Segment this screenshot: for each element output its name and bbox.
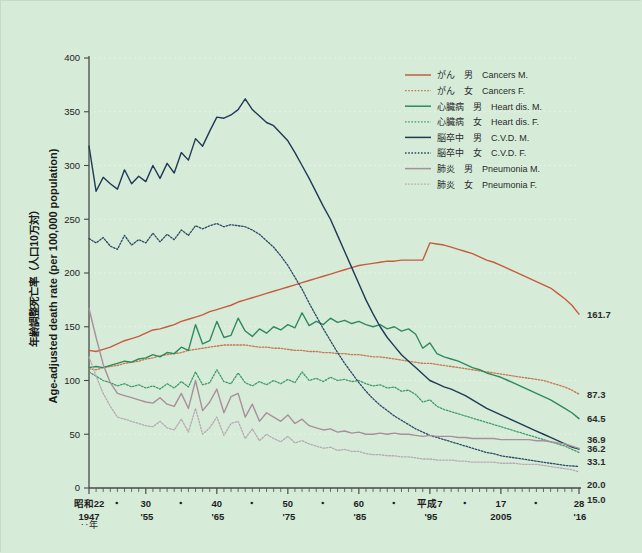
y-tick-label-250: 250: [64, 214, 80, 225]
x-tick-era-1955: 30: [141, 498, 152, 509]
x-axis-corner-note: ‥年: [80, 519, 98, 530]
x-tick-era-2005: 17: [496, 498, 507, 509]
x-tick-dot-1970: ・: [247, 497, 257, 508]
y-tick-label-350: 350: [64, 106, 80, 117]
legend-label-pneumonia_f: 肺炎 女 Pneumonia F.: [437, 179, 537, 190]
x-tick-era-2016: 28: [574, 498, 585, 509]
legend-label-heart_f: 心臓病 女 Heart dis. F.: [437, 116, 539, 127]
y-tick-label-100: 100: [64, 375, 80, 386]
end-label-heart_f: 33.1: [587, 456, 606, 467]
x-tick-western-1955: '55: [140, 511, 154, 522]
legend-label-cvd_f: 脳卒中 女 C.V.D. F.: [437, 147, 526, 158]
y-tick-label-200: 200: [64, 267, 80, 278]
x-tick-western-1995: '95: [424, 511, 438, 522]
x-tick-era-1965: 40: [212, 498, 223, 509]
x-tick-dot-1951: ・: [112, 497, 122, 508]
legend-label-cancer_f: がん 女 Cancers F.: [437, 85, 525, 96]
x-tick-western-1985: '85: [353, 511, 367, 522]
x-tick-era-1947: 昭和22: [74, 498, 105, 509]
y-tick-label-400: 400: [64, 52, 80, 63]
y-tick-label-0: 0: [75, 482, 80, 493]
x-tick-dot-1960: ・: [176, 497, 186, 508]
end-label-cancer_m: 161.7: [587, 309, 611, 320]
x-tick-dot-1990: ・: [389, 497, 399, 508]
y-tick-label-150: 150: [64, 321, 80, 332]
x-tick-western-1975: '75: [282, 511, 296, 522]
x-tick-western-2016: '16: [574, 511, 587, 522]
y-tick-label-300: 300: [64, 160, 80, 171]
end-label-pneumonia_f: 15.0: [587, 494, 606, 505]
end-label-cvd_f: 20.0: [587, 479, 606, 490]
end-label-cancer_f: 87.3: [587, 389, 606, 400]
legend-label-cvd_m: 脳卒中 男 C.V.D. M.: [437, 132, 529, 143]
legend-label-pneumonia_m: 肺炎 男 Pneumonia M.: [437, 164, 540, 174]
x-tick-dot-2010: ・: [531, 497, 541, 508]
x-tick-dot-2000: ・: [460, 497, 470, 508]
end-label-heart_m: 64.5: [587, 413, 606, 424]
x-tick-era-1985: 60: [354, 498, 365, 509]
age-adjusted-death-rate-chart: 050100150200250300350400 161.787.364.536…: [1, 1, 642, 553]
y-axis-title-jp: 年齢調整死亡率（人口10万対）: [28, 205, 40, 347]
x-tick-western-2005: 2005: [490, 511, 512, 522]
legend-label-heart_m: 心臓病 男 Heart dis. M.: [437, 101, 542, 112]
x-tick-era-1995: 平成7: [417, 498, 442, 509]
end-label-cvd_m: 36.2: [587, 443, 606, 454]
legend-label-cancer_m: がん 男 Cancers M.: [437, 69, 528, 80]
y-axis-title-en: Age-adjusted death rate (per 100,000 pop…: [47, 148, 59, 403]
x-tick-western-1965: '65: [211, 511, 225, 522]
x-tick-era-1975: 50: [283, 498, 294, 509]
x-tick-dot-1980: ・: [318, 497, 328, 508]
y-tick-label-50: 50: [69, 429, 80, 440]
